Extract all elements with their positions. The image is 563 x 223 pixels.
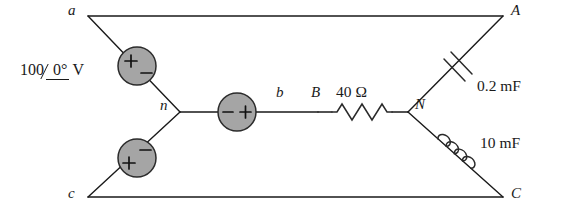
voltage-source-c-n bbox=[118, 139, 156, 177]
circuit-diagram-figure: a n c b A N C B 1000° V 40 Ω 0.2 mF 10 m… bbox=[0, 0, 563, 223]
source-voltage-angle: 0° bbox=[53, 61, 67, 78]
capacitor-icon bbox=[444, 52, 472, 81]
circuit-schematic-svg bbox=[0, 0, 563, 223]
inductor-value-label: 10 mF bbox=[480, 135, 520, 151]
resistor-value-label: 40 Ω bbox=[336, 84, 367, 100]
node-label-A: A bbox=[511, 3, 520, 18]
node-label-N: N bbox=[415, 97, 425, 112]
angle-symbol: 0° bbox=[44, 62, 68, 78]
node-label-n: n bbox=[160, 98, 168, 113]
voltage-source-n-b bbox=[218, 93, 256, 131]
node-label-c: c bbox=[68, 186, 75, 201]
source-voltage-label: 1000° V bbox=[18, 62, 84, 78]
node-label-C: C bbox=[511, 186, 521, 201]
node-label-a: a bbox=[68, 3, 76, 18]
resistor-icon bbox=[332, 104, 392, 120]
source-voltage-unit: V bbox=[72, 61, 84, 78]
inductor-icon bbox=[437, 132, 477, 169]
capacitor-value-label: 0.2 mF bbox=[477, 78, 521, 94]
node-label-b: b bbox=[276, 85, 284, 100]
node-label-B: B bbox=[311, 85, 320, 100]
wire-N-to-C bbox=[408, 112, 503, 197]
source-voltage-magnitude: 100 bbox=[20, 61, 44, 78]
voltage-source-a-n bbox=[118, 47, 156, 85]
